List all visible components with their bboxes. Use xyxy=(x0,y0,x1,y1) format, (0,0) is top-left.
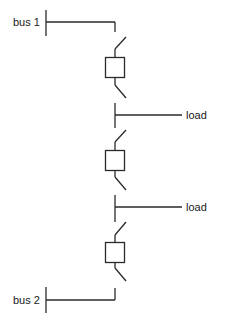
breaker-2-box xyxy=(106,151,125,171)
breaker-3-upper-contact xyxy=(115,222,126,235)
bus-2-label: bus 2 xyxy=(13,294,40,306)
breaker-1-lower-contact xyxy=(115,85,126,98)
breaker-1 xyxy=(106,37,127,98)
bus-2: bus 2 xyxy=(13,287,115,313)
breaker-2-lower-contact xyxy=(115,177,126,190)
breaker-1-box xyxy=(106,58,125,78)
load-1-label: load xyxy=(186,109,207,121)
breaker-1-upper-contact xyxy=(115,37,126,49)
load-2-label: load xyxy=(186,201,207,213)
bus-1-label: bus 1 xyxy=(13,16,40,28)
bus-1: bus 1 xyxy=(13,10,115,36)
breaker-3-box xyxy=(106,243,125,263)
breaker-2-upper-contact xyxy=(115,130,126,142)
load-1: load xyxy=(115,103,207,128)
breaker-3-lower-contact xyxy=(115,268,126,281)
load-2: load xyxy=(115,195,207,222)
breaker-3 xyxy=(106,222,127,281)
schematic-diagram: bus 1 load load xyxy=(0,0,226,331)
breaker-2 xyxy=(106,130,127,190)
